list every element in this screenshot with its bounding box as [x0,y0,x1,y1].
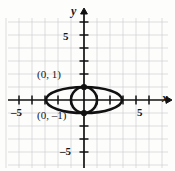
x-axis-label: x [162,92,168,104]
intersection-dot-top [81,84,87,90]
y-tick-label-5: 5 [63,31,69,42]
x-tick-label-neg5: –5 [11,107,22,118]
point-label-bottom: (0, –1) [37,110,66,121]
y-tick-label-neg5: –5 [60,146,71,157]
point-label-top: (0, 1) [37,69,61,80]
y-axis-label: y [71,5,76,17]
x-tick-label-5: 5 [137,107,143,118]
plot-canvas [0,0,175,171]
intersection-dot-bottom [81,110,87,116]
conic-intersection-figure: y x 5 –5 –5 5 (0, 1) (0, –1) [0,0,175,171]
